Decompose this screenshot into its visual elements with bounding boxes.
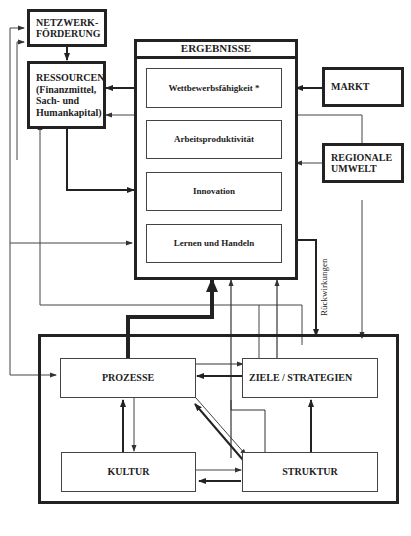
lernen-und-handeln-box: Lernen und Handeln [146,224,282,263]
ressourcen-box: RESSOURCEN (Finanzmittel, Sach- und Huma… [27,61,106,129]
regionale-umwelt-box: REGIONALE UMWELT [322,143,404,183]
kultur-box: KULTUR [61,452,196,492]
ziele-strategien-box: ZIELE / STRATEGIEN [242,358,378,398]
struktur-box: STRUKTUR [242,452,378,492]
arbeitsproduktivitaet-box: Arbeitsproduktivität [146,120,282,159]
ergebnisse-title: ERGEBNISSE [137,42,295,59]
netzwerk-foerderung-box: NETZWERK- FÖRDERUNG [27,9,107,47]
markt-box: MARKT [322,67,404,107]
prozesse-box: PROZESSE [60,358,196,398]
wettbewerbsfaehigkeit-box: Wettbewerbsfähigkeit * [146,68,282,108]
rueckwirkungen-label: Rückwirkungen [319,259,329,317]
innovation-box: Innovation [146,172,282,211]
